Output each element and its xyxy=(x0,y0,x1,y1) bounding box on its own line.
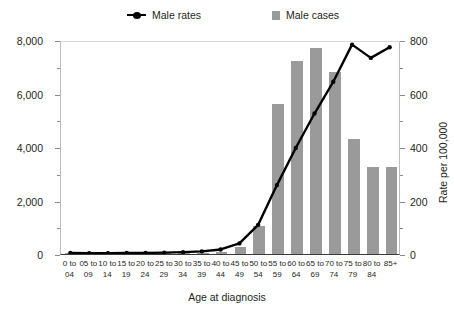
data-point-marker xyxy=(87,251,91,254)
y-axis-right-tick-label: 200 xyxy=(410,196,428,208)
chart-container: Male rates Male cases Average number of … xyxy=(0,0,454,314)
y-axis-right-tick-label: 800 xyxy=(410,35,428,47)
data-point-marker xyxy=(350,42,354,46)
legend-item-male-rates: Male rates xyxy=(127,10,201,21)
line-marker-icon xyxy=(127,11,146,20)
x-axis-tick-label: 50 to54 xyxy=(249,258,268,280)
x-axis-tick-label: 55 to59 xyxy=(268,258,287,280)
data-point-marker xyxy=(218,247,222,251)
x-axis-tick-label: 60 to64 xyxy=(287,258,306,280)
line-path xyxy=(70,45,389,254)
data-point-marker xyxy=(125,251,129,254)
data-point-marker xyxy=(256,223,260,227)
data-point-marker xyxy=(162,250,166,254)
data-point-marker xyxy=(181,250,185,254)
y-axis-right-minor-tick xyxy=(400,121,403,122)
y-axis-left-tick-label: 8,000 xyxy=(17,35,43,47)
data-point-marker xyxy=(387,45,391,49)
y-axis-right-tick-mark xyxy=(400,95,405,96)
y-axis-right-tick-mark xyxy=(400,41,405,42)
x-axis-tick-label: 0 to04 xyxy=(60,258,79,280)
x-axis-tick-label: 05 to09 xyxy=(79,258,98,280)
y-axis-right-tick-mark xyxy=(400,148,405,149)
y-axis-left-tick-label: 0 xyxy=(37,249,43,261)
x-axis-tick-label: 35 to39 xyxy=(192,258,211,280)
plot-area xyxy=(60,41,400,255)
x-axis-tick-label: 75 to79 xyxy=(343,258,362,280)
x-axis-tick-label: 65 to69 xyxy=(306,258,325,280)
y-axis-left-tick-label: 6,000 xyxy=(17,89,43,101)
data-point-marker xyxy=(106,251,110,254)
x-axis-tick-label: 40 to44 xyxy=(211,258,230,280)
data-point-marker xyxy=(369,56,373,60)
y-axis-right-title: Rate per 100,000 xyxy=(437,122,449,203)
data-point-marker xyxy=(331,80,335,84)
y-axis-left-tick-label: 2,000 xyxy=(17,196,43,208)
chart-legend: Male rates Male cases xyxy=(0,10,454,28)
x-axis-tick-labels: 0 to0405 to0910 to1415 to1920 to2425 to2… xyxy=(60,258,400,288)
data-point-marker xyxy=(143,251,147,254)
data-point-marker xyxy=(312,111,316,115)
y-axis-right-minor-tick xyxy=(400,228,403,229)
x-axis-tick-label: 45 to49 xyxy=(230,258,249,280)
x-axis-title: Age at diagnosis xyxy=(0,291,454,303)
x-axis-tick-label: 15 to19 xyxy=(117,258,136,280)
data-point-marker xyxy=(294,146,298,150)
y-axis-right-tick-mark xyxy=(400,202,405,203)
y-axis-right-tick-label: 600 xyxy=(410,89,428,101)
data-point-marker xyxy=(200,249,204,253)
y-axis-right-minor-tick xyxy=(400,175,403,176)
y-axis-right-tick-label: 400 xyxy=(410,142,428,154)
y-axis-left-tick-label: 4,000 xyxy=(17,142,43,154)
y-axis-right-minor-tick xyxy=(400,68,403,69)
legend-item-male-cases: Male cases xyxy=(272,10,339,21)
x-axis-tick-label: 10 to14 xyxy=(98,258,117,280)
x-axis-tick-label: 80 to84 xyxy=(362,258,381,280)
x-axis-tick-label: 20 to24 xyxy=(136,258,155,280)
data-point-marker xyxy=(237,241,241,245)
x-axis-tick-label: 25 to29 xyxy=(154,258,173,280)
data-point-marker xyxy=(68,251,72,254)
data-point-marker xyxy=(275,183,279,187)
legend-label-male-rates: Male rates xyxy=(152,10,201,21)
x-axis-tick-label: 30 to34 xyxy=(173,258,192,280)
line-series-male-rates xyxy=(61,42,399,254)
square-swatch-icon xyxy=(272,11,280,20)
y-axis-right-tick-label: 0 xyxy=(410,249,416,261)
x-axis-tick-label: 70 to74 xyxy=(324,258,343,280)
y-axis-right-tick-mark xyxy=(400,255,405,256)
x-axis-tick-label: 85+ xyxy=(381,258,400,269)
y-axis-left-tick-mark xyxy=(55,255,60,256)
legend-label-male-cases: Male cases xyxy=(286,10,339,21)
